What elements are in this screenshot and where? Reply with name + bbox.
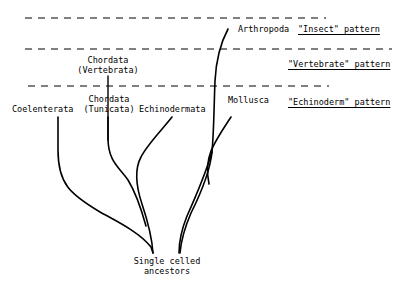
taxon-label-mollusca: Mollusca — [228, 95, 269, 105]
taxon-label-echinodermata: Echinodermata — [139, 104, 206, 114]
tree-canvas — [0, 0, 404, 292]
branch-echinodermata — [137, 117, 172, 253]
pattern-label-vertebrate: "Vertebrate" pattern — [288, 59, 390, 69]
pattern-label-insect: "Insect" pattern — [298, 24, 380, 34]
taxon-label-chordata-tunicata: Chordata (Tunicata) — [76, 94, 142, 114]
branch-coelenterata — [58, 117, 153, 253]
phylogenetic-tree-diagram: Coelenterata Chordata (Vertebrata) Chord… — [0, 0, 404, 292]
root-label-single-celled-ancestors: Single celled ancestors — [112, 256, 222, 276]
branch-mollusca — [208, 117, 231, 184]
taxon-label-arthropoda: Arthropoda — [238, 24, 289, 34]
pattern-label-echinoderm: "Echinoderm" pattern — [288, 97, 390, 107]
taxon-label-coelenterata: Coelenterata — [12, 104, 73, 114]
taxon-label-chordata-vertebrata: Chordata (Vertebrata) — [70, 55, 146, 75]
branch-arthropoda — [180, 29, 228, 253]
branch-chordata-tunicata — [108, 117, 146, 226]
